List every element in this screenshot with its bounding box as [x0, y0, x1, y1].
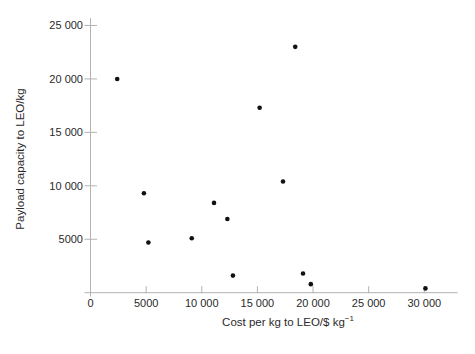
data-point	[231, 273, 236, 278]
x-tick-label: 5000	[134, 297, 158, 309]
scatter-plot-figure: 0500010 00015 00020 00025 00030 00050001…	[0, 0, 475, 354]
x-tick-label: 25 000	[352, 297, 386, 309]
data-point	[281, 179, 286, 184]
x-axis-title: Cost per kg to LEO/$ kg−1	[222, 316, 354, 328]
data-point	[293, 45, 298, 50]
data-point	[423, 286, 428, 291]
data-point	[301, 271, 306, 276]
x-tick-label: 10 000	[185, 297, 219, 309]
plot-canvas: 0500010 00015 00020 00025 00030 00050001…	[0, 0, 475, 354]
data-point	[146, 240, 151, 245]
y-tick-label: 20 000	[49, 73, 83, 85]
x-tick-label: 20 000	[296, 297, 330, 309]
x-axis-title-superscript: −1	[345, 314, 354, 323]
y-tick-label: 10 000	[49, 180, 83, 192]
x-tick-label: 30 000	[407, 297, 441, 309]
x-tick-label: 0	[87, 297, 93, 309]
y-axis-title-text: Payload capacity to LEO/kg	[14, 88, 26, 229]
y-tick-label: 25 000	[49, 19, 83, 31]
y-axis-title: Payload capacity to LEO/kg	[14, 88, 26, 229]
x-axis-title-text: Cost per kg to LEO/$ kg	[222, 316, 345, 328]
data-point	[142, 191, 147, 196]
data-point	[115, 77, 120, 82]
y-tick-label: 5000	[59, 233, 83, 245]
data-point	[225, 217, 230, 222]
data-point	[212, 201, 217, 206]
y-tick-label: 15 000	[49, 126, 83, 138]
data-point	[257, 105, 262, 110]
data-point	[189, 236, 194, 241]
data-point	[309, 282, 314, 287]
x-tick-label: 15 000	[241, 297, 275, 309]
